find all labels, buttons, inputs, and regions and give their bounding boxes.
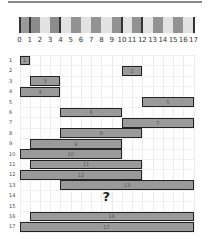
bar-label: 4 xyxy=(38,89,41,95)
grid-line-vertical xyxy=(122,55,123,232)
band-edge-marker xyxy=(29,17,31,33)
question-mark: ? xyxy=(103,189,111,204)
grid-line-horizontal xyxy=(20,232,194,233)
bar-label: 9 xyxy=(74,141,77,147)
row-label: 6 xyxy=(9,109,19,115)
band-edge-marker xyxy=(121,17,123,33)
interval-bar: 7 xyxy=(122,118,194,128)
grid-line-vertical xyxy=(194,55,195,232)
top-divider xyxy=(8,1,202,3)
bar-label: 1 xyxy=(23,57,26,63)
interval-bar: 4 xyxy=(20,87,61,97)
grid-line-vertical xyxy=(163,55,164,232)
grid-line-vertical xyxy=(173,55,174,232)
interval-bar: 10 xyxy=(20,149,122,159)
interval-bar: 12 xyxy=(20,170,143,180)
interval-bar: 11 xyxy=(30,160,143,170)
bar-label: 6 xyxy=(90,109,93,115)
bar-label: 8 xyxy=(100,130,103,136)
interval-bar: 17 xyxy=(20,222,194,232)
band-segment xyxy=(101,17,111,33)
band-edge-marker xyxy=(59,17,61,33)
row-label: 5 xyxy=(9,99,19,105)
band-segment xyxy=(142,17,152,33)
bar-label: 5 xyxy=(166,99,169,105)
row-label: 16 xyxy=(9,213,19,219)
row-label: 9 xyxy=(9,140,19,146)
interval-bar: 3 xyxy=(30,76,61,86)
band-segment xyxy=(122,17,132,33)
bar-label: 3 xyxy=(44,78,47,84)
grid-line-horizontal xyxy=(20,55,194,56)
bar-label: 11 xyxy=(83,161,89,167)
row-label: 3 xyxy=(9,78,19,84)
grid-line-vertical xyxy=(132,55,133,232)
band-segment xyxy=(60,17,70,33)
interval-bar: 13 xyxy=(60,180,193,190)
interval-bar: 8 xyxy=(60,128,142,138)
row-label: 15 xyxy=(9,203,19,209)
grid-line-vertical xyxy=(153,55,154,232)
row-label: 11 xyxy=(9,161,19,167)
interval-bar: 6 xyxy=(60,108,121,118)
bar-label: 12 xyxy=(78,172,84,178)
band-segment xyxy=(153,17,163,33)
grid-line-horizontal xyxy=(20,65,194,66)
band-edge-marker xyxy=(193,17,195,33)
grid-line-vertical xyxy=(142,55,143,232)
band-edge-marker xyxy=(19,17,21,33)
interval-bar: 1 xyxy=(20,56,30,66)
bar-label: 2 xyxy=(131,68,134,74)
interval-bar: 5 xyxy=(142,97,193,107)
interval-bar: 2 xyxy=(122,66,142,76)
row-label: 2 xyxy=(9,67,19,73)
band-edge-marker xyxy=(141,17,143,33)
row-label: 17 xyxy=(9,223,19,229)
interval-bar: 9 xyxy=(30,139,122,149)
row-label: 14 xyxy=(9,192,19,198)
row-label: 1 xyxy=(9,57,19,63)
bar-label: 16 xyxy=(108,213,114,219)
row-label: 13 xyxy=(9,182,19,188)
bar-label: 7 xyxy=(156,120,159,126)
tick-label: 17 xyxy=(188,36,200,44)
interval-bar: 16 xyxy=(30,212,194,222)
row-label: 4 xyxy=(9,88,19,94)
band-segment xyxy=(30,17,40,33)
band-segment xyxy=(81,17,91,33)
row-label: 7 xyxy=(9,119,19,125)
row-label: 12 xyxy=(9,171,19,177)
header-band xyxy=(20,17,194,33)
band-segment xyxy=(71,17,81,33)
band-segment xyxy=(40,17,50,33)
row-label: 10 xyxy=(9,151,19,157)
grid-line-vertical xyxy=(20,55,21,232)
row-label: 8 xyxy=(9,130,19,136)
band-segment xyxy=(173,17,183,33)
bar-label: 17 xyxy=(103,224,109,230)
band-segment xyxy=(163,17,173,33)
bar-label: 10 xyxy=(68,151,74,157)
bar-label: 13 xyxy=(124,182,130,188)
grid-line-vertical xyxy=(183,55,184,232)
band-segment xyxy=(91,17,101,33)
